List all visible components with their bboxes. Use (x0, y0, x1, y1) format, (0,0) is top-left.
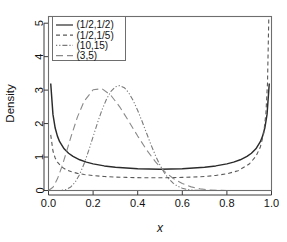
chart-canvas: 012345 0.00.20.40.60.81.0 Density x (1/2… (0, 0, 287, 242)
beta-density-chart: 012345 0.00.20.40.60.81.0 Density x (1/2… (0, 0, 287, 242)
x-tick-label: 1.0 (264, 197, 279, 209)
legend-item-label: (3,5) (77, 50, 98, 61)
x-tick-label: 0.8 (219, 197, 234, 209)
x-tick-label: 0.0 (41, 197, 56, 209)
y-axis-title: Density (4, 84, 16, 123)
chart-legend: (1/2,1/2)(1/2,1/5)(10,15)(3,5) (53, 17, 126, 62)
x-tick-label: 0.2 (85, 197, 100, 209)
x-axis-title: x (156, 221, 164, 235)
x-tick-label: 0.4 (130, 197, 145, 209)
x-tick-label: 0.6 (175, 197, 190, 209)
